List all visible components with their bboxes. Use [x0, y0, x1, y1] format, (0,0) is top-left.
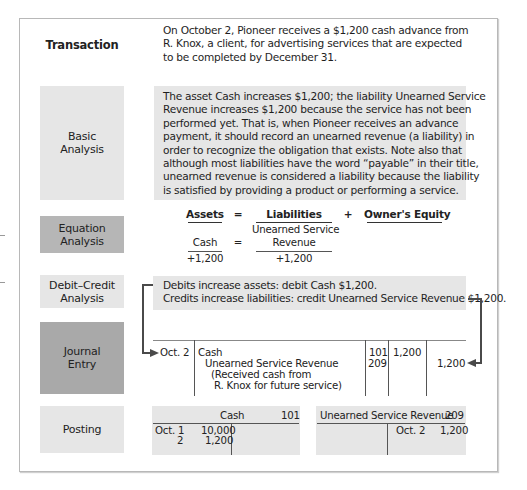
debit-credit-label-line: Debit–Credit — [49, 279, 115, 292]
basic-analysis-label-line: Analysis — [60, 143, 104, 156]
cash-t-top-rule — [153, 423, 299, 424]
basic-analysis-line: although most liabilities have the word … — [163, 157, 466, 170]
arrow-left-icon — [467, 359, 476, 367]
basic-analysis-label-line: Basic — [68, 130, 96, 143]
journal-credit-ref: 209 — [368, 358, 387, 369]
posting-label-text: Posting — [63, 423, 102, 436]
asset-account-underline — [188, 251, 222, 252]
debit-credit-label-line: Analysis — [60, 292, 104, 305]
journal-ref-divider — [365, 340, 366, 396]
transaction-line: On October 2, Pioneer receives a $1,200 … — [163, 24, 473, 37]
unearned-account-number: 209 — [445, 411, 464, 422]
basic-analysis-label: Basic Analysis — [40, 86, 124, 200]
cash-debit-date: 2 — [177, 436, 183, 447]
equation-assets-header: Assets — [186, 208, 224, 220]
equation-equals-sign-2: = — [232, 237, 244, 248]
transaction-label: Transaction — [40, 26, 124, 64]
basic-analysis-line: Revenue increases $1,200 because the ser… — [163, 103, 466, 116]
transaction-label-text: Transaction — [46, 39, 119, 52]
scan-mark — [0, 282, 5, 283]
journal-entry-label-line: Journal — [64, 345, 101, 358]
journal-explanation: (Received cash from — [211, 369, 311, 380]
credit-rule-line: Credits increase liabilities: credit Une… — [163, 292, 466, 305]
basic-analysis-text: The asset Cash increases $1,200; the lia… — [154, 86, 466, 200]
journal-credit-account: Unearned Service Revenue — [205, 358, 338, 369]
equation-liability-account-2: Revenue — [252, 237, 336, 248]
basic-analysis-line: order to recognize the obligation that e… — [163, 144, 466, 157]
equation-analysis-label-line: Analysis — [60, 235, 104, 248]
unearned-t-top-rule — [317, 423, 465, 424]
journal-credit-amount: 1,200 — [437, 358, 465, 369]
debit-credit-analysis-label: Debit–Credit Analysis — [40, 275, 124, 308]
unearned-account-title: Unearned Service Revenue — [320, 411, 453, 422]
equation-plus-sign: + — [342, 208, 354, 220]
transaction-text: On October 2, Pioneer receives a $1,200 … — [163, 24, 473, 64]
basic-analysis-line: The asset Cash increases $1,200; the lia… — [163, 90, 466, 103]
equation-asset-account: Cash — [186, 237, 224, 248]
basic-analysis-line: payment, it should record an unearned re… — [163, 130, 466, 143]
transaction-line: R. Knox, a client, for advertising servi… — [163, 37, 473, 50]
liability-account-underline — [256, 251, 332, 252]
equation-equity-header: Owner's Equity — [364, 208, 444, 220]
journal-explanation: R. Knox for future service) — [214, 380, 342, 391]
liabilities-underline — [256, 222, 332, 223]
credit-bracket-vertical — [480, 298, 482, 364]
unearned-credit-amount: 1,200 — [440, 426, 468, 437]
cash-account-title: Cash — [220, 411, 244, 422]
posting-label: Posting — [40, 406, 124, 453]
arrow-right-icon — [150, 349, 159, 357]
unearned-credit-date: Oct. 2 — [396, 426, 425, 437]
basic-analysis-line: is satisfied by providing a product or p… — [163, 184, 466, 197]
journal-top-rule — [153, 340, 466, 341]
assets-underline — [188, 222, 222, 223]
journal-date-divider — [194, 340, 195, 396]
cash-debit-amount: 1,200 — [205, 436, 233, 447]
equation-analysis-label: Equation Analysis — [40, 216, 124, 253]
debit-bracket-vertical — [142, 284, 144, 354]
debit-rule-line: Debits increase assets: debit Cash $1,20… — [163, 279, 466, 292]
equation-liability-amount: +1,200 — [256, 253, 332, 264]
journal-debit-account: Cash — [198, 347, 222, 358]
equation-liability-account: Unearned Service — [252, 224, 336, 235]
journal-debit-amount: 1,200 — [393, 347, 421, 358]
scan-mark — [0, 235, 5, 236]
basic-analysis-line: unearned revenue is considered a liabili… — [163, 170, 466, 183]
basic-analysis-line: performed yet. That is, when Pioneer rec… — [163, 117, 466, 130]
equation-liabilities-header: Liabilities — [256, 208, 332, 220]
cash-account-number: 101 — [281, 411, 300, 422]
equation-equals-sign: = — [232, 208, 244, 220]
journal-date: Oct. 2 — [160, 347, 189, 358]
unearned-t-divider — [387, 423, 388, 455]
equity-underline — [367, 222, 442, 223]
debit-credit-analysis-text: Debits increase assets: debit Cash $1,20… — [153, 276, 466, 310]
equation-asset-amount: +1,200 — [184, 253, 226, 264]
equation-analysis-label-line: Equation — [58, 222, 105, 235]
journal-credit-divider — [426, 340, 427, 396]
journal-entry-label-line: Entry — [68, 358, 96, 371]
journal-entry-label: Journal Entry — [40, 322, 124, 394]
transaction-line: to be completed by December 31. — [163, 51, 473, 64]
journal-debit-ref: 101 — [369, 347, 388, 358]
journal-debit-divider — [388, 340, 389, 396]
